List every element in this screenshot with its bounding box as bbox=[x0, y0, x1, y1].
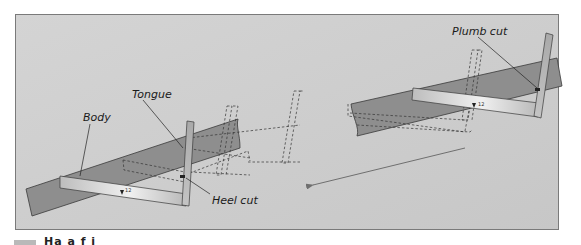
caption-bar bbox=[14, 240, 36, 245]
tongue-label: Tongue bbox=[132, 88, 172, 101]
diagram-canvas: 12 12 Body Tongue Heel cut Plumb cut bbox=[0, 0, 581, 245]
heel-cut-marker bbox=[180, 175, 185, 178]
figure-caption: Ha a f i bbox=[14, 236, 96, 245]
right-square-tick-label: 12 bbox=[478, 101, 484, 107]
body-label: Body bbox=[83, 111, 111, 124]
plumb-cut-label: Plumb cut bbox=[452, 25, 508, 38]
heel-cut-label: Heel cut bbox=[212, 194, 258, 207]
left-square-tick-label: 12 bbox=[125, 187, 131, 193]
rafter-layout-diagram: 12 12 Body Tongue Heel cut Plumb cut Ha … bbox=[0, 0, 581, 245]
caption-text: Ha a f i bbox=[44, 236, 96, 245]
plumb-cut-marker bbox=[535, 88, 540, 91]
